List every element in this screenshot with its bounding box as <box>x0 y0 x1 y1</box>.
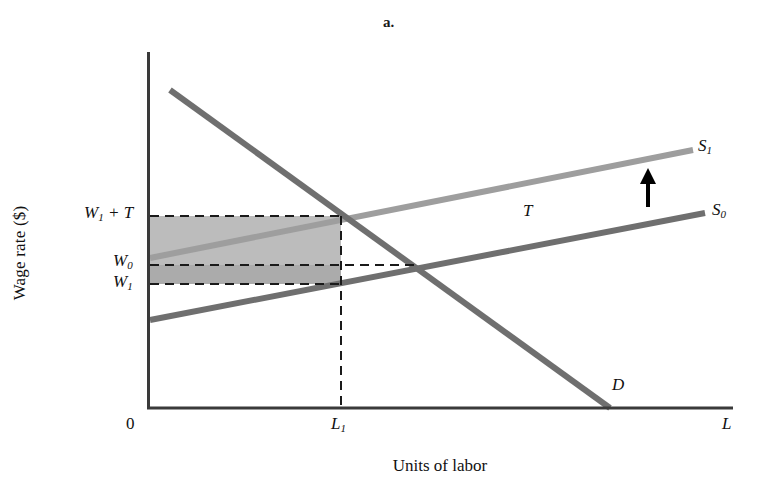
supply-curve-s1 <box>150 150 693 258</box>
w1-plus-t-tail: + T <box>104 203 133 222</box>
shift-arrow-icon <box>640 168 656 207</box>
tax-gap-label: T <box>523 201 532 221</box>
curve-label-d: D <box>612 375 624 395</box>
curve-label-s1: S1 <box>698 136 712 156</box>
origin-label: 0 <box>126 414 135 434</box>
curve-label-s0: S0 <box>712 200 726 220</box>
w1-plus-t-base: W <box>84 203 98 222</box>
w1-base: W <box>113 272 127 291</box>
y-tick-label-w1: W1 <box>113 272 133 292</box>
shaded-region-lower <box>150 265 341 284</box>
w0-sub: 0 <box>127 259 133 271</box>
plot-svg <box>0 0 777 497</box>
s1-sub: 1 <box>707 144 713 156</box>
s0-base: S <box>712 200 721 219</box>
s0-sub: 0 <box>721 208 727 220</box>
y-tick-label-w0: W0 <box>113 251 133 271</box>
w0-base: W <box>113 251 127 270</box>
figure-canvas: a. Wage rate ($) Units of labor W1 + T W… <box>0 0 777 497</box>
s1-base: S <box>698 136 707 155</box>
w1-sub: 1 <box>127 280 133 292</box>
x-tick-label-l1: L1 <box>331 414 346 434</box>
x-axis-end-label: L <box>722 414 731 434</box>
y-tick-label-w1-plus-t: W1 + T <box>84 203 133 223</box>
l1-sub: 1 <box>340 422 346 434</box>
